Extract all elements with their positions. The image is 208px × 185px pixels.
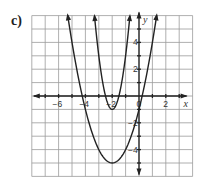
y-tick-label: −4: [128, 145, 138, 155]
tick-labels: −6−4−20242−2−4xy: [53, 14, 189, 155]
x-tick-label: 2: [163, 99, 168, 109]
y-tick-label: 2: [133, 64, 138, 74]
curve-arrow-icon: [92, 14, 97, 21]
y-tick-label: 4: [133, 37, 138, 47]
graph-plot: −6−4−20242−2−4xy: [0, 0, 208, 185]
y-axis-label: y: [142, 14, 148, 25]
x-axis: [33, 94, 188, 99]
x-axis-label: x: [183, 98, 189, 109]
curve-arrow-icon: [153, 13, 158, 20]
x-tick-label: −6: [53, 99, 63, 109]
curve-arrow-icon: [66, 13, 71, 20]
curve-arrow-icon: [127, 14, 132, 21]
